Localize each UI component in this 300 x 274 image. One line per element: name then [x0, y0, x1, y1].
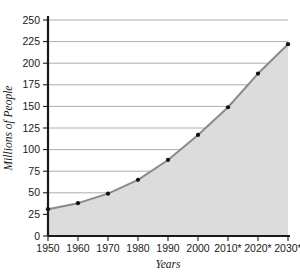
x-tick-label: 1960: [66, 242, 90, 254]
x-tick-label: 2020*: [244, 242, 271, 254]
x-tick-label: 1980: [126, 242, 150, 254]
data-point: [76, 201, 80, 205]
population-area-chart: 0255075100125150175200225250 19501960197…: [0, 0, 300, 274]
plot-area-group: [46, 42, 290, 236]
data-point: [226, 105, 230, 109]
data-point: [136, 178, 140, 182]
y-tick-label: 250: [22, 14, 40, 26]
x-axis-title: Years: [155, 258, 181, 270]
data-point: [106, 192, 110, 196]
y-axis-tick-labels: 0255075100125150175200225250: [22, 14, 40, 242]
y-tick-label: 0: [34, 230, 40, 242]
x-tick-label: 2000: [186, 242, 210, 254]
x-tick-label: 2030*: [274, 242, 300, 254]
x-tick-label: 1990: [156, 242, 180, 254]
y-tick-label: 100: [22, 143, 40, 155]
x-tick-label: 1950: [36, 242, 60, 254]
data-point: [196, 133, 200, 137]
x-tick-label: 1970: [96, 242, 120, 254]
chart-svg: 0255075100125150175200225250 19501960197…: [0, 0, 300, 274]
data-point: [256, 71, 260, 75]
data-point: [166, 158, 170, 162]
y-tick-label: 125: [22, 122, 40, 134]
y-tick-label: 25: [28, 208, 40, 220]
y-tick-label: 150: [22, 100, 40, 112]
y-axis-title: Millions of People: [2, 86, 15, 172]
data-point: [286, 42, 290, 46]
area-fill-path: [48, 44, 288, 236]
y-tick-label: 75: [28, 165, 40, 177]
x-axis-tick-labels: 1950196019701980199020002010*2020*2030*: [36, 242, 300, 254]
y-tick-label: 50: [28, 186, 40, 198]
y-tick-label: 225: [22, 35, 40, 47]
x-tick-label: 2010*: [214, 242, 241, 254]
y-tick-label: 200: [22, 57, 40, 69]
y-tick-label: 175: [22, 78, 40, 90]
